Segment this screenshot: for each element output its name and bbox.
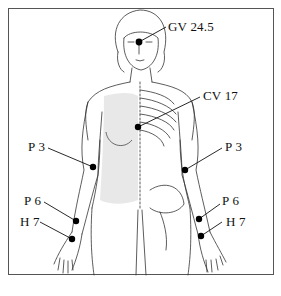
label-p6-right: P 6 <box>222 194 239 207</box>
point-p6-right <box>196 216 202 222</box>
ribcage <box>140 90 176 146</box>
label-p3-left: P 3 <box>28 140 45 153</box>
point-p6-left <box>73 218 79 224</box>
point-p3-right <box>182 167 188 173</box>
label-cv-17: CV 17 <box>203 89 238 102</box>
point-p3-left <box>90 164 96 170</box>
label-h7-right: H 7 <box>226 215 246 228</box>
leader-p6-left <box>44 202 76 221</box>
label-p6-left: P 6 <box>24 194 41 207</box>
left-hand <box>54 232 82 273</box>
leader-h7-left <box>40 222 72 239</box>
leader-gv-24-5 <box>139 27 166 42</box>
label-p3-right: P 3 <box>225 140 242 153</box>
leader-cv-17 <box>138 97 200 127</box>
point-h7-left <box>69 236 75 242</box>
muscle-shading <box>100 93 138 204</box>
face <box>124 32 159 70</box>
leader-p6-right <box>199 204 220 219</box>
point-cv-17 <box>135 124 141 130</box>
leader-p3-left <box>48 148 93 167</box>
pelvis <box>150 185 184 250</box>
legs <box>91 208 191 275</box>
label-gv-24-5: GV 24.5 <box>168 20 214 33</box>
leader-h7-right <box>201 222 222 236</box>
left-arm <box>72 102 102 234</box>
point-gv-24-5 <box>136 39 143 46</box>
point-h7-right <box>198 233 204 239</box>
label-h7-left: H 7 <box>20 215 40 228</box>
leader-p3-right <box>185 148 222 170</box>
